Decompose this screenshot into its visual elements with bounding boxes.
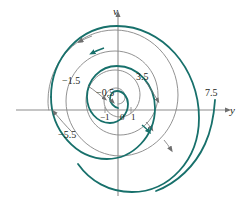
y-axis-label: v <box>113 6 118 17</box>
outer-spiral-arrow-lower <box>142 125 149 132</box>
leader-3-5 <box>146 82 158 101</box>
spiral-phase-plane-figure: y v −1 0 1 −1.5 −0.5 3.5 7.5 −5.5 <box>0 0 249 204</box>
x-tick-label-pos1: 1 <box>131 113 136 122</box>
origin-label: 0 <box>120 113 125 122</box>
x-axis-label: y <box>230 105 235 116</box>
plot-canvas <box>0 0 249 204</box>
label-neg-1-5: −1.5 <box>62 76 80 86</box>
label-neg-0-5: −0.5 <box>96 88 114 98</box>
label-7-5: 7.5 <box>205 88 218 98</box>
x-tick-label-neg1: −1 <box>100 113 110 122</box>
outer-spiral-trajectory <box>51 26 215 192</box>
inner-spiral-arrow-lower <box>164 140 171 150</box>
label-neg-5-5: −5.5 <box>58 130 76 140</box>
label-3-5: 3.5 <box>136 72 149 82</box>
outer-spiral-right-arc <box>156 100 215 191</box>
